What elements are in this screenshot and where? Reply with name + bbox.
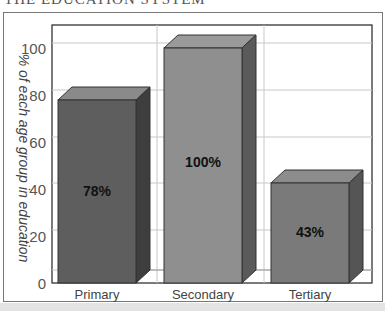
x-category-label: Tertiary xyxy=(260,287,360,302)
y-tick: 60 xyxy=(10,134,46,151)
y-tick: 20 xyxy=(10,228,46,245)
bar-value-label: 43% xyxy=(270,224,350,240)
bar-value-label: 78% xyxy=(57,183,137,199)
x-category-label: Secondary xyxy=(153,287,253,302)
y-tick: 100 xyxy=(10,40,46,57)
bar-value-label: 100% xyxy=(163,154,243,170)
y-tick: 80 xyxy=(10,87,46,104)
y-tick: 0 xyxy=(10,275,46,292)
y-tick: 40 xyxy=(10,181,46,198)
x-category-label: Primary xyxy=(47,287,147,302)
